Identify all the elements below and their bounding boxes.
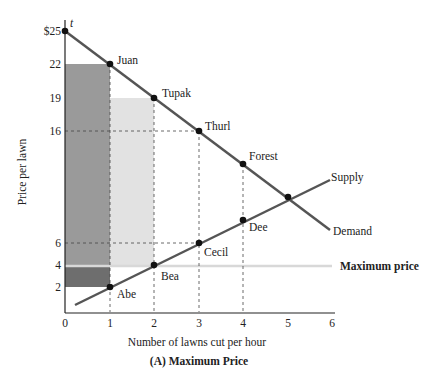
x-tick-6: 6 xyxy=(329,317,335,329)
x-axis-label: Number of lawns cut per hour xyxy=(128,336,266,349)
label-tupak: Tupak xyxy=(162,87,191,100)
label-juan: Juan xyxy=(117,54,138,66)
x-tick-4: 4 xyxy=(240,317,246,329)
label-cecil: Cecil xyxy=(204,246,228,258)
x-tick-5: 5 xyxy=(285,317,291,329)
label-forest: Forest xyxy=(249,150,279,162)
y-tick-25: $25 xyxy=(44,25,62,37)
chart-title: (A) Maximum Price xyxy=(150,355,248,368)
y-tick-6: 6 xyxy=(55,237,61,249)
shaded-area-lost-surplus xyxy=(65,267,110,287)
x-tick-3: 3 xyxy=(196,317,202,329)
y-tick-4: 4 xyxy=(55,259,61,271)
label-supply: Supply xyxy=(331,171,364,184)
y-tick-19: 19 xyxy=(50,92,62,104)
label-bea: Bea xyxy=(161,270,179,282)
x-tick-2: 2 xyxy=(151,317,157,329)
label-maximum-price: Maximum price xyxy=(340,260,419,273)
shaded-area-juan xyxy=(65,64,110,265)
x-tick-0: 0 xyxy=(62,317,68,329)
label-dee: Dee xyxy=(249,221,268,233)
shaded-area-tupak xyxy=(110,98,154,265)
chart: t Juan Tupak Thurl Forest Abe Bea Cecil … xyxy=(0,0,442,372)
y-tick-16: 16 xyxy=(50,125,62,137)
label-abe: Abe xyxy=(117,288,136,300)
label-demand: Demand xyxy=(333,225,372,237)
y-axis-label: Price per lawn xyxy=(16,139,29,206)
x-tick-1: 1 xyxy=(107,317,113,329)
y-tick-2: 2 xyxy=(55,281,61,293)
label-t: t xyxy=(70,17,74,29)
label-thurl: Thurl xyxy=(205,120,231,132)
y-tick-22: 22 xyxy=(50,58,62,70)
